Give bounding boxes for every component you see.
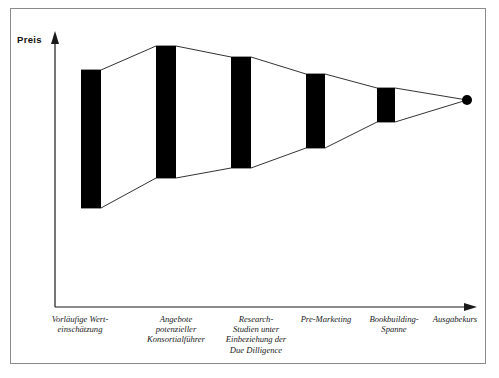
stage-label-ausgabekurs: Ausgabekurs (433, 314, 477, 324)
endpoint-dot (462, 95, 472, 105)
price-axis (51, 31, 59, 307)
stage-bar (81, 70, 101, 208)
lower-bound-line (81, 100, 467, 208)
stage-bar (306, 74, 325, 148)
figure-container: Preis Vorläufige Wert- einschätzung Ange… (0, 0, 499, 378)
stage-bar (156, 46, 176, 178)
stage-label-vorlaeufige-werteinschaetzung: Vorläufige Wert- einschätzung (52, 314, 109, 334)
stage-bar (377, 88, 395, 122)
process-axis (55, 303, 477, 311)
stage-bar (231, 57, 251, 168)
y-axis-title: Preis (17, 34, 42, 45)
upper-bound-line (81, 46, 467, 100)
x-axis-arrow-icon (464, 303, 477, 311)
stage-label-bookbuilding-spanne: Bookbuilding- Spanne (369, 314, 418, 334)
stage-label-angebote-konsortialfuehrer: Angebote potenzieller Konsortialführer (147, 314, 205, 345)
stage-label-research-studien: Research- Studien unter Einbeziehung der… (226, 314, 286, 355)
stage-label-pre-marketing: Pre-Marketing (301, 314, 352, 324)
y-axis-arrow-icon (51, 31, 59, 44)
